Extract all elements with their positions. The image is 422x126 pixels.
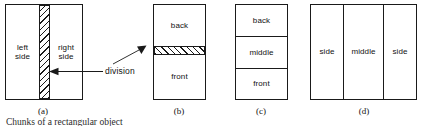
panel-a-region-left-side: left side [6,5,39,99]
panel-a-sub-caption: (a) [28,106,58,116]
panel-b: back front [153,4,206,100]
figure-chunks-of-rectangular-object: left side right side back front back mid… [0,0,422,126]
division-label: division [105,66,135,76]
panel-d-sub-caption: (d) [349,106,379,116]
panel-c-sub-caption: (c) [246,106,276,116]
panel-d-region-side-right: side [384,5,416,99]
panel-b-region-back: back [154,5,205,46]
panel-a-region-division [39,5,50,99]
panel-c-region-middle: middle [236,37,287,68]
panel-d: side middle side [310,4,417,100]
panel-d-region-side-left: side [311,5,343,99]
panel-b-region-division [154,46,205,55]
panel-d-region-middle: middle [344,5,383,99]
figure-caption: Chunks of a rectangular object [6,117,123,126]
panel-b-region-front: front [154,55,205,99]
panel-b-sub-caption: (b) [164,106,194,116]
panel-a: left side right side [5,4,83,100]
panel-c: back middle front [235,4,288,100]
panel-c-region-front: front [236,69,287,99]
panel-c-region-back: back [236,5,287,36]
panel-a-region-right-side: right side [50,5,82,99]
